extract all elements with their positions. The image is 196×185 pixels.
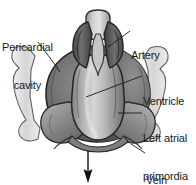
label-pericardial-cavity: Pericardial cavity xyxy=(2,16,53,116)
label-artery-line1: Artery xyxy=(131,49,160,62)
downward-arrow xyxy=(84,151,93,183)
label-ventricle-line1: Ventricle xyxy=(143,95,184,108)
label-vein: Vein xyxy=(146,149,167,185)
anatomical-figure: Pericardial cavity Artery Ventricle Left… xyxy=(0,0,196,185)
label-pericardial-cavity-line2: cavity xyxy=(2,79,53,92)
label-left-atrial-primordia-line1: Left atrial xyxy=(143,132,188,145)
label-pericardial-cavity-line1: Pericardial xyxy=(2,41,53,54)
label-vein-line1: Vein xyxy=(146,174,167,185)
